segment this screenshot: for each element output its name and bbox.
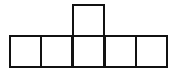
square-r1-c3 xyxy=(72,4,105,37)
square-r2-c1 xyxy=(9,35,42,68)
square-r2-c5 xyxy=(135,35,168,68)
square-r2-c2 xyxy=(40,35,73,68)
square-r2-c4 xyxy=(104,35,137,68)
square-r2-c3 xyxy=(72,35,105,68)
